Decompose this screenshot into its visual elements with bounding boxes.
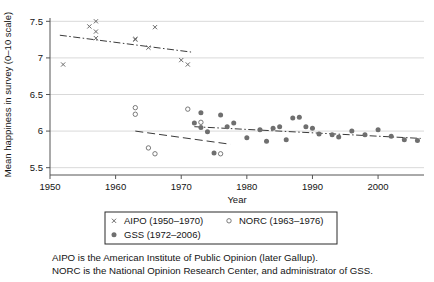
x-tick-label: 2000 [367, 181, 388, 192]
y-tick-label: 6 [38, 125, 43, 136]
gridlines [50, 21, 424, 167]
point-aipo [87, 24, 91, 28]
point-gss [277, 124, 282, 129]
x-tick-label: 1960 [105, 181, 126, 192]
point-norc [133, 112, 137, 116]
y-tick-label: 7.5 [30, 16, 43, 27]
y-axis-title: Mean happiness in survey (0–10 scale) [2, 12, 13, 177]
point-gss [310, 126, 315, 131]
legend-label-1: NORC (1963–1976) [239, 215, 324, 226]
trendline-aipo-fit [60, 35, 191, 52]
point-norc [199, 120, 203, 124]
point-gss [198, 125, 203, 130]
point-gss [297, 115, 302, 120]
point-gss [225, 124, 230, 129]
footnote-line-2: NORC is the National Opinion Research Ce… [52, 265, 373, 276]
point-gss [389, 134, 394, 139]
point-aipo [61, 62, 65, 66]
legend-marker-aipo [112, 219, 116, 223]
data-points [61, 19, 420, 156]
point-gss [218, 112, 223, 117]
point-aipo [179, 58, 183, 62]
x-tick-label: 1970 [171, 181, 192, 192]
point-norc [218, 152, 222, 156]
point-gss [264, 139, 269, 144]
point-aipo [133, 38, 137, 42]
x-tick-label: 1990 [302, 181, 323, 192]
legend-marker-norc [227, 219, 231, 223]
point-gss [303, 124, 308, 129]
point-gss [376, 127, 381, 132]
y-tick-label: 7 [38, 52, 43, 63]
point-gss [284, 137, 289, 142]
point-norc [133, 105, 137, 109]
legend-label-0: AIPO (1950–1970) [124, 215, 203, 226]
point-gss [349, 129, 354, 134]
point-gss [362, 132, 367, 137]
footnotes: AIPO is the American Institute of Public… [52, 252, 373, 276]
point-gss [402, 137, 407, 142]
point-gss [290, 115, 295, 120]
chart-canvas: 7.576.565.5195019601970198019902000YearM… [0, 0, 434, 282]
point-aipo [94, 29, 98, 33]
y-tick-label: 6.5 [30, 89, 43, 100]
legend-marker-gss [112, 232, 117, 237]
point-aipo [94, 36, 98, 40]
point-norc [153, 152, 157, 156]
y-tick-label: 5.5 [30, 162, 43, 173]
footnote-line-1: AIPO is the American Institute of Public… [52, 252, 318, 263]
x-tick-label: 1980 [236, 181, 257, 192]
point-gss [212, 151, 217, 156]
point-gss [317, 132, 322, 137]
point-aipo [153, 25, 157, 29]
point-gss [330, 132, 335, 137]
axes: 7.576.565.5195019601970198019902000YearM… [2, 12, 424, 205]
legend: AIPO (1950–1970)NORC (1963–1976)GSS (197… [105, 212, 337, 244]
legend-label-2: GSS (1972–2006) [124, 229, 201, 240]
point-gss [205, 129, 210, 134]
happiness-over-time-chart: 7.576.565.5195019601970198019902000YearM… [0, 0, 434, 282]
x-tick-label: 1950 [39, 181, 60, 192]
point-gss [271, 126, 276, 131]
point-gss [198, 110, 203, 115]
point-norc [186, 107, 190, 111]
trendline-norc-fit [135, 131, 230, 144]
x-axis-title: Year [227, 194, 246, 205]
point-aipo [186, 62, 190, 66]
point-gss [231, 121, 236, 126]
point-aipo [146, 46, 150, 50]
point-gss [192, 121, 197, 126]
point-gss [336, 134, 341, 139]
trendlines [60, 35, 421, 144]
point-gss [244, 135, 249, 140]
point-gss [257, 127, 262, 132]
point-gss [415, 138, 420, 143]
point-norc [146, 146, 150, 150]
point-aipo [133, 37, 137, 41]
